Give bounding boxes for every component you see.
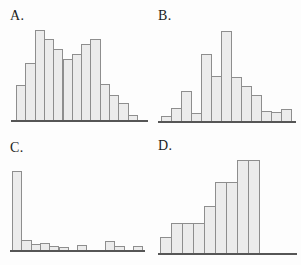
histogram-bar bbox=[77, 245, 87, 250]
panel-label-c: C. bbox=[10, 141, 24, 155]
histogram-bar bbox=[12, 171, 22, 250]
histogram-bar bbox=[128, 115, 138, 120]
histogram-bar bbox=[248, 160, 260, 253]
histogram-b bbox=[158, 31, 296, 123]
histogram-d bbox=[158, 160, 297, 255]
four-histograms-figure: A. B. C. D. bbox=[0, 0, 301, 265]
histogram-bar bbox=[133, 246, 143, 250]
histogram-bar bbox=[59, 247, 69, 250]
panel-label-d: D. bbox=[158, 139, 173, 153]
histogram-a bbox=[11, 30, 148, 122]
histogram-bar bbox=[114, 246, 124, 250]
histogram-c bbox=[10, 171, 145, 252]
histogram-bar bbox=[281, 109, 292, 121]
panel-label-a: A. bbox=[10, 9, 25, 23]
panel-label-b: B. bbox=[158, 9, 172, 23]
